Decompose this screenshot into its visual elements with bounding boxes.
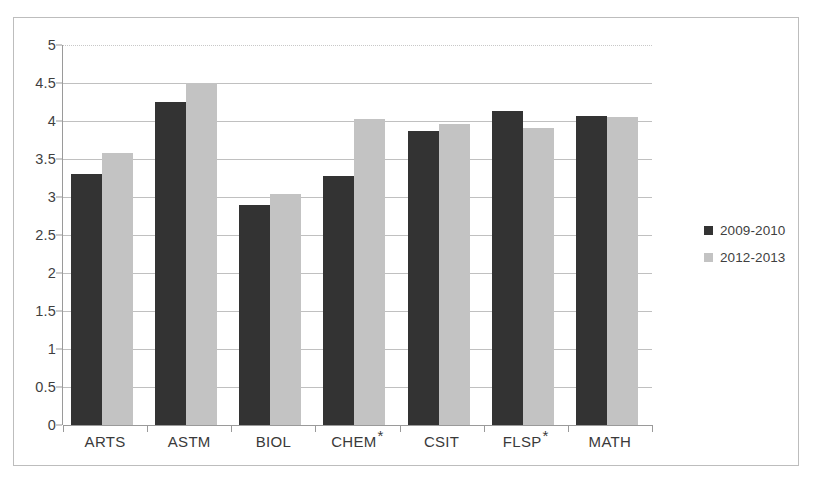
bar-group (231, 45, 315, 425)
x-axis-label-flsp: FLSP* (484, 433, 568, 450)
x-axis-tick (652, 425, 653, 432)
x-axis-tick (484, 425, 485, 432)
bar-csit-2012-2013 (439, 124, 470, 425)
bar-flsp-2009-2010 (492, 111, 523, 425)
y-axis-tick-label: 4 (48, 113, 56, 129)
y-axis-tick-label: 5 (48, 37, 56, 53)
chart-frame: 00.511.522.533.544.55 ARTSASTMBIOLCHEM*C… (13, 17, 799, 466)
x-axis-tick (147, 425, 148, 432)
y-axis-tick-label: 3 (48, 189, 56, 205)
x-axis-label-astm: ASTM (147, 433, 231, 450)
x-axis-labels: ARTSASTMBIOLCHEM*CSITFLSP*MATH (63, 433, 652, 461)
y-axis-tick-label: 3.5 (35, 151, 56, 167)
bar-biol-2012-2013 (270, 194, 301, 425)
x-axis-tick (315, 425, 316, 432)
legend-item-2012-2013[interactable]: 2012-2013 (704, 244, 799, 271)
x-axis-label-arts: ARTS (63, 433, 147, 450)
y-axis-tick (56, 311, 62, 312)
bar-group (315, 45, 399, 425)
y-axis-tick (56, 349, 62, 350)
x-axis-label-chem: CHEM* (315, 433, 399, 450)
legend-label: 2012-2013 (720, 250, 785, 265)
x-axis-label-csit: CSIT (400, 433, 484, 450)
y-axis-tick (56, 197, 62, 198)
y-axis-tick (56, 83, 62, 84)
legend-swatch-icon (704, 253, 713, 262)
x-axis-ticks (63, 425, 652, 432)
y-axis-tick (56, 45, 62, 46)
y-axis-tick-label: 4.5 (35, 75, 56, 91)
bar-arts-2012-2013 (102, 153, 133, 425)
y-axis-tick (56, 387, 62, 388)
bar-groups (63, 45, 652, 425)
y-axis-tick-label: 1 (48, 341, 56, 357)
bar-chem-2012-2013 (354, 119, 385, 425)
bar-astm-2009-2010 (155, 102, 186, 425)
y-axis-labels: 00.511.522.533.544.55 (14, 45, 56, 425)
y-axis-tick (56, 273, 62, 274)
x-axis-tick (400, 425, 401, 432)
legend-swatch-icon (704, 226, 713, 235)
y-axis-tick (56, 121, 62, 122)
y-axis-tick (56, 425, 62, 426)
bar-math-2012-2013 (607, 117, 638, 425)
y-axis-tick-label: 0 (48, 417, 56, 433)
y-axis-tick-label: 2 (48, 265, 56, 281)
y-axis-tick-label: 2.5 (35, 227, 56, 243)
x-axis-tick (63, 425, 64, 432)
legend-item-2009-2010[interactable]: 2009-2010 (704, 217, 799, 244)
x-axis-label-math: MATH (568, 433, 652, 450)
y-axis-tick (56, 235, 62, 236)
bar-astm-2012-2013 (186, 83, 217, 425)
x-axis-tick (231, 425, 232, 432)
bar-math-2009-2010 (576, 116, 607, 425)
bar-group (568, 45, 652, 425)
bar-flsp-2012-2013 (523, 128, 554, 425)
legend-label: 2009-2010 (720, 223, 785, 238)
y-axis-tick-label: 1.5 (35, 303, 56, 319)
bar-group (63, 45, 147, 425)
bar-arts-2009-2010 (71, 174, 102, 425)
bar-biol-2009-2010 (239, 205, 270, 425)
x-axis-label-biol: BIOL (231, 433, 315, 450)
y-axis-tick-label: 0.5 (35, 379, 56, 395)
bar-group (484, 45, 568, 425)
y-axis-tick (56, 159, 62, 160)
chart-legend: 2009-20102012-2013 (704, 217, 799, 271)
x-axis-tick (568, 425, 569, 432)
bar-chem-2009-2010 (323, 176, 354, 425)
bar-group (147, 45, 231, 425)
bar-csit-2009-2010 (408, 131, 439, 425)
bar-group (400, 45, 484, 425)
